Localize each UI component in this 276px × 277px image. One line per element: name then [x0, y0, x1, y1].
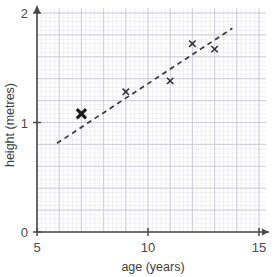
y-tick-label: 0 [21, 225, 28, 240]
y-axis-title: height (metres) [3, 83, 17, 167]
x-axis-title: age (years) [121, 260, 184, 274]
y-tick-label: 1 [21, 116, 28, 131]
chart-canvas: age (years) height (metres) 51015 012 [0, 0, 276, 277]
x-tick-label: 10 [141, 240, 155, 255]
x-tick-label: 5 [33, 240, 40, 255]
x-tick-label: 15 [252, 240, 266, 255]
y-tick-label: 2 [21, 6, 28, 21]
scatter-chart: age (years) height (metres) 51015 012 [0, 0, 276, 277]
